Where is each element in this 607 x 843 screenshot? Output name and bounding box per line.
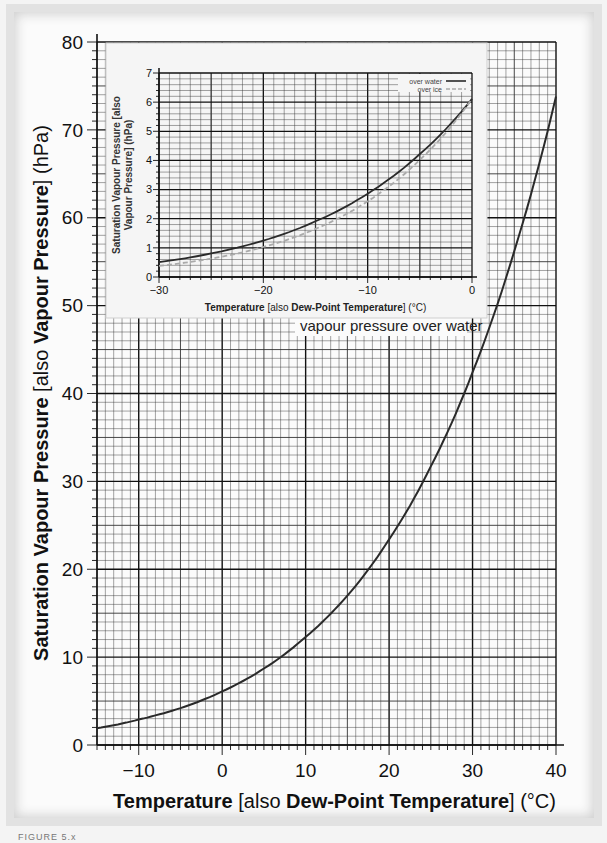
main-x-tick-label: 10: [295, 760, 316, 781]
main-x-tick-label: 0: [217, 760, 228, 781]
main-y-tick-label: 30: [62, 471, 83, 492]
main-y-tick-label: 40: [62, 383, 83, 404]
inset-x-tick-label: −20: [254, 284, 273, 296]
legend-label-over-water: over water: [409, 78, 442, 85]
inset-y-tick-label: 2: [146, 213, 152, 225]
main-y-tick-label: 70: [62, 120, 83, 141]
main-y-axis-title: Saturation Vapour Pressure [also Vapour …: [30, 125, 52, 661]
main-y-tick-label: 0: [72, 735, 83, 756]
inset-y-tick-label: 3: [146, 183, 152, 195]
main-x-tick-label: 40: [545, 760, 566, 781]
inset-x-tick-label: −10: [358, 284, 377, 296]
main-x-tick-label: 20: [379, 760, 400, 781]
inset-x-axis-title: Temperature [also Dew-Point Temperature]…: [205, 302, 426, 313]
main-x-tick-label: 30: [462, 760, 483, 781]
main-y-tick-label: 20: [62, 559, 83, 580]
inset-x-tick-label: 0: [469, 284, 475, 296]
inset-y-tick-label: 6: [146, 96, 152, 108]
figure-caption: FIGURE 5.x: [18, 832, 77, 842]
inset-y-tick-label: 7: [146, 67, 152, 79]
legend-label-over-ice: over ice: [417, 86, 442, 93]
main-x-tick-label: −10: [123, 760, 155, 781]
main-y-tick-label: 80: [62, 32, 83, 53]
main-x-axis-title: Temperature [also Dew-Point Temperature]…: [113, 790, 556, 812]
inset-y-tick-label: 5: [146, 125, 152, 137]
inset-legend: over waterover ice: [398, 74, 470, 93]
inset-y-tick-label: 4: [146, 154, 152, 166]
main-y-tick-label: 50: [62, 295, 83, 316]
vapour-pressure-chart: −1001020304001020304050607080Temperature…: [0, 0, 607, 843]
inset-y-tick-label: 1: [146, 242, 152, 254]
annotation-label: vapour pressure over water: [300, 317, 483, 334]
inset-x-tick-label: −30: [150, 284, 169, 296]
main-y-tick-label: 10: [62, 647, 83, 668]
inset-y-axis-title: Saturation Vapour Pressure [alsoVapour P…: [111, 96, 134, 254]
inset-y-tick-label: 0: [146, 271, 152, 283]
main-y-tick-label: 60: [62, 207, 83, 228]
